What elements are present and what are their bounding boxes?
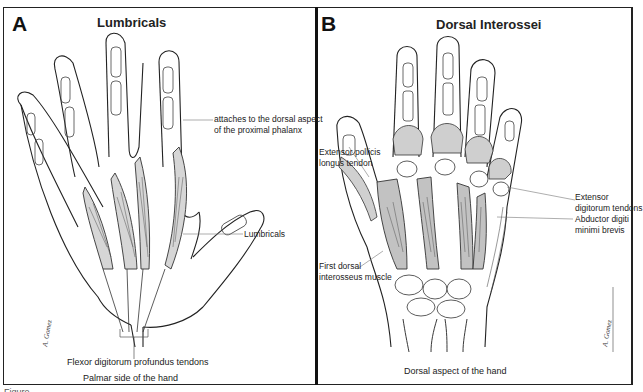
- label-line: Extensor pollicis: [319, 147, 380, 158]
- label-extensor-digitorum-tendons: Extensor digitorum tendons: [575, 192, 643, 214]
- label-line: First dorsal: [319, 261, 392, 272]
- panel-a-lumbricals: A Lumbricals: [3, 7, 315, 385]
- label-line: Extensor: [575, 192, 643, 203]
- label-first-dorsal-interosseus: First dorsal interosseus muscle: [319, 261, 392, 283]
- label-line: Abductor digiti: [575, 214, 629, 225]
- label-line: interosseus muscle: [319, 272, 392, 283]
- label-line: of the proximal phalanx: [214, 125, 323, 136]
- panel-view-caption: Dorsal aspect of the hand: [404, 366, 507, 376]
- palmar-hand-illustration: A. Gomez: [3, 7, 315, 385]
- label-attaches-dorsal: attaches to the dorsal aspect of the pro…: [214, 114, 323, 136]
- label-line: digitorum tendons: [575, 203, 643, 214]
- label-line: longus tendon: [319, 158, 380, 169]
- label-line: attaches to the dorsal aspect: [214, 114, 323, 125]
- artist-signature: A. Gomez: [601, 319, 614, 348]
- label-lumbricals: Lumbricals: [244, 229, 285, 240]
- panel-b-dorsal-interossei: B Dorsal Interossei: [317, 7, 633, 385]
- label-abductor-digiti-minimi: Abductor digiti minimi brevis: [575, 214, 629, 236]
- artist-signature: A. Gomez: [41, 319, 54, 348]
- panel-view-caption: Palmar side of the hand: [83, 373, 178, 383]
- figure-caption: Figure: [4, 386, 30, 392]
- label-line: minimi brevis: [575, 225, 629, 236]
- label-extensor-pollicis-longus: Extensor pollicis longus tendon: [319, 147, 380, 169]
- label-fdp-tendons: Flexor digitorum profundus tendons: [67, 357, 209, 367]
